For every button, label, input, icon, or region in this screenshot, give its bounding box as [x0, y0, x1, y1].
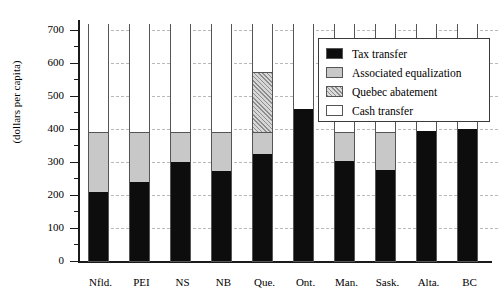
segment-cash	[171, 23, 190, 132]
segment-tax	[253, 154, 272, 261]
segment-abate	[253, 72, 272, 132]
legend-label: Quebec abatement	[352, 86, 437, 98]
bar-pei	[129, 24, 150, 262]
segment-tax	[294, 109, 313, 261]
x-axis-label: BC	[449, 276, 490, 288]
segment-tax	[417, 131, 436, 261]
legend-item-tax-transfer: Tax transfer	[326, 44, 482, 63]
bar-nb	[211, 24, 232, 262]
bar-stack	[293, 24, 314, 262]
y-tick-label: 100	[22, 222, 64, 233]
x-axis-label: Que.	[244, 276, 285, 288]
bar-ont	[293, 24, 314, 262]
segment-tax	[89, 192, 108, 261]
segment-tax	[335, 161, 354, 261]
y-axis-title: (dollars per capita)	[10, 42, 22, 162]
bar-ns	[170, 24, 191, 262]
y-tick-label: 200	[22, 189, 64, 200]
x-axis-label: PEI	[121, 276, 162, 288]
x-axis-label: NS	[162, 276, 203, 288]
segment-cash	[89, 23, 108, 132]
y-tick-label: 0	[22, 255, 64, 266]
x-axis-label: Ont.	[285, 276, 326, 288]
open-white-swatch-icon	[326, 105, 343, 116]
y-tick-label: 700	[22, 24, 64, 35]
segment-assoc	[171, 132, 190, 162]
segment-assoc	[335, 132, 354, 161]
legend-label: Associated equalization	[352, 67, 462, 79]
segment-tax	[130, 182, 149, 261]
y-tick-label: 500	[22, 90, 64, 101]
bar-stack	[211, 24, 232, 262]
segment-assoc	[130, 132, 149, 182]
stacked-bar-chart: (dollars per capita) 0100200300400500600…	[0, 0, 504, 306]
bar-nfld	[88, 24, 109, 262]
y-tick-label: 600	[22, 57, 64, 68]
segment-cash	[294, 23, 313, 109]
segment-assoc	[89, 132, 108, 191]
chart-legend: Tax transfer Associated equalization Que…	[318, 38, 490, 122]
solid-black-swatch-icon	[326, 48, 343, 59]
segment-tax	[376, 170, 395, 261]
x-axis-label: NB	[203, 276, 244, 288]
hatched-gray-swatch-icon	[326, 86, 343, 97]
y-tick-label: 400	[22, 123, 64, 134]
segment-assoc	[253, 132, 272, 153]
bar-stack	[129, 24, 150, 262]
segment-tax	[212, 171, 231, 261]
segment-assoc	[212, 132, 231, 171]
bar-que	[252, 24, 273, 262]
segment-cash	[212, 23, 231, 132]
legend-item-cash-transfer: Cash transfer	[326, 101, 482, 120]
legend-label: Tax transfer	[352, 48, 407, 60]
segment-cash	[130, 23, 149, 132]
bar-stack	[252, 24, 273, 262]
segment-tax	[171, 162, 190, 261]
legend-label: Cash transfer	[352, 105, 413, 117]
segment-cash	[253, 23, 272, 72]
bar-stack	[88, 24, 109, 262]
x-axis-label: Nfld.	[80, 276, 121, 288]
x-axis-label: Alta.	[408, 276, 449, 288]
segment-tax	[458, 129, 477, 261]
segment-assoc	[376, 132, 395, 170]
solid-gray-swatch-icon	[326, 67, 343, 78]
x-axis-label: Sask.	[367, 276, 408, 288]
y-tick-label: 300	[22, 156, 64, 167]
bar-stack	[170, 24, 191, 262]
x-axis-label: Man.	[326, 276, 367, 288]
legend-item-quebec-abatement: Quebec abatement	[326, 82, 482, 101]
legend-item-associated-equalization: Associated equalization	[326, 63, 482, 82]
